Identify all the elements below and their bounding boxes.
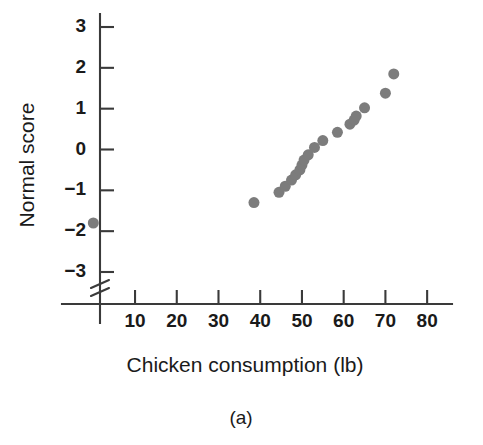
data-point	[351, 111, 362, 122]
y-tick-label: −3	[64, 260, 86, 281]
data-point-series	[88, 68, 399, 228]
x-tick-label: 20	[166, 310, 187, 331]
y-tick-label: −2	[64, 219, 86, 240]
figure-caption: (a)	[229, 407, 252, 428]
x-axis-ticks	[135, 290, 427, 304]
x-tick-label: 30	[208, 310, 229, 331]
normal-probability-plot-figure: −3−2−10123 1020304050607080 Normal score…	[0, 0, 483, 445]
y-axis-ticks	[100, 27, 114, 272]
x-axis-tick-labels: 1020304050607080	[124, 310, 437, 331]
data-point	[317, 135, 328, 146]
y-tick-label: 3	[75, 15, 86, 36]
y-tick-label: 1	[75, 97, 86, 118]
y-tick-label: −1	[64, 178, 86, 199]
x-axis-title: Chicken consumption (lb)	[127, 353, 364, 376]
x-tick-label: 60	[333, 310, 354, 331]
data-point	[380, 88, 391, 99]
y-tick-label: 2	[75, 56, 86, 77]
y-tick-label: 0	[75, 138, 86, 159]
x-tick-label: 80	[417, 310, 438, 331]
data-point	[359, 102, 370, 113]
x-tick-label: 10	[124, 310, 145, 331]
data-point	[388, 68, 399, 79]
y-axis-title: Normal score	[15, 103, 38, 228]
data-point	[248, 197, 259, 208]
y-axis-group: −3−2−10123	[64, 14, 114, 323]
x-axis-group: 1020304050607080	[62, 290, 452, 331]
data-point	[332, 127, 343, 138]
y-axis-tick-labels: −3−2−10123	[64, 15, 86, 281]
x-tick-label: 40	[250, 310, 271, 331]
data-point	[88, 217, 99, 228]
x-tick-label: 70	[375, 310, 396, 331]
scatter-plot-canvas: −3−2−10123 1020304050607080 Normal score…	[0, 0, 483, 445]
x-tick-label: 50	[291, 310, 312, 331]
